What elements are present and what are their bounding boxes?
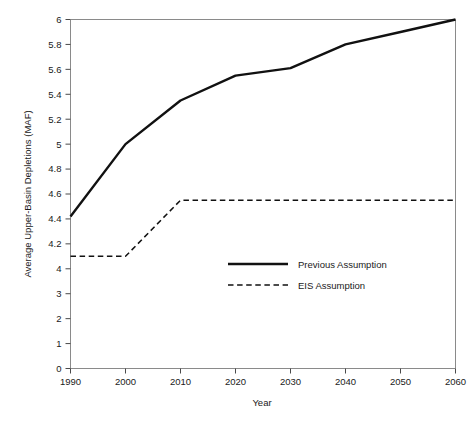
legend-item-previous-assumption: Previous Assumption xyxy=(228,259,387,270)
y-tick-label: 5.6 xyxy=(48,64,61,75)
y-tick-label: 4.4 xyxy=(48,213,61,224)
x-axis-title: Year xyxy=(252,397,271,408)
line-chart: 012344.24.44.64.855.25.45.65.86 19902000… xyxy=(0,0,470,423)
y-axis-ticks: 012344.24.44.64.855.25.45.65.86 xyxy=(48,14,70,374)
x-tick-label: 2010 xyxy=(170,376,191,387)
y-tick-label: 5.2 xyxy=(48,114,61,125)
series-group xyxy=(71,20,456,257)
y-axis-title: Average Upper-Basin Depletions (MAF) xyxy=(22,110,33,277)
y-tick-label: 5.4 xyxy=(48,89,61,100)
x-tick-label: 2020 xyxy=(225,376,246,387)
x-tick-label: 2000 xyxy=(115,376,136,387)
y-tick-label: 4.8 xyxy=(48,163,61,174)
y-tick-label: 0 xyxy=(56,363,61,374)
y-tick-label: 3 xyxy=(56,288,61,299)
chart-legend: Previous Assumption EIS Assumption xyxy=(228,259,387,291)
x-axis-ticks: 19902000201020202030204020502060 xyxy=(60,369,466,387)
series-eis-assumption-line xyxy=(71,200,456,256)
y-tick-label: 5.8 xyxy=(48,39,61,50)
y-tick-label: 2 xyxy=(56,313,61,324)
y-tick-label: 5 xyxy=(56,139,61,150)
x-tick-label: 2050 xyxy=(390,376,411,387)
y-tick-label: 4 xyxy=(56,263,61,274)
series-previous-assumption-line xyxy=(71,20,456,217)
y-tick-label: 6 xyxy=(56,14,61,25)
legend-item-eis-assumption: EIS Assumption xyxy=(228,280,365,291)
y-tick-label: 1 xyxy=(56,338,61,349)
x-tick-label: 2030 xyxy=(280,376,301,387)
x-tick-label: 2060 xyxy=(445,376,466,387)
x-tick-label: 2040 xyxy=(335,376,356,387)
chart-container: 012344.24.44.64.855.25.45.65.86 19902000… xyxy=(0,0,470,423)
legend-label-eis-assumption: EIS Assumption xyxy=(298,280,365,291)
y-tick-label: 4.6 xyxy=(48,188,61,199)
y-tick-label: 4.2 xyxy=(48,238,61,249)
legend-label-previous-assumption: Previous Assumption xyxy=(298,259,387,270)
x-tick-label: 1990 xyxy=(60,376,81,387)
